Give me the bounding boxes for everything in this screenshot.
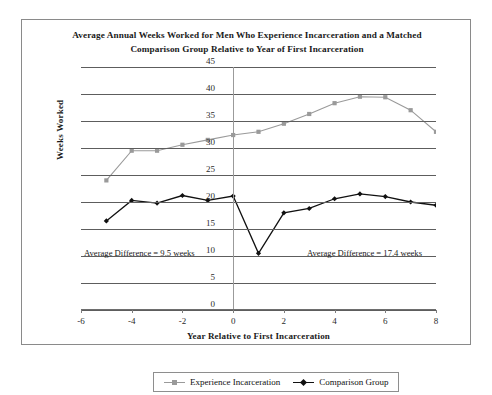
x-tick-label-6: 6 (374, 316, 396, 326)
data-point (433, 203, 436, 208)
x-tick-mark-4 (335, 310, 336, 313)
legend-label: Experience Incarceration (190, 377, 280, 387)
chart-title-line-1: Average Annual Weeks Worked for Men Who … (52, 29, 442, 43)
data-point (307, 206, 312, 211)
legend-entry-comparison-group[interactable]: Comparison Group (293, 377, 388, 387)
data-point (307, 112, 311, 116)
category-axis-line (81, 309, 436, 310)
data-point (104, 178, 108, 182)
legend-label: Comparison Group (319, 377, 388, 387)
x-tick-mark-8 (436, 310, 437, 313)
data-point (332, 196, 337, 201)
gridline-30 (81, 148, 436, 149)
y-tick-label-40: 40 (189, 83, 215, 93)
chart-legend: Experience IncarcerationComparison Group (153, 372, 399, 392)
data-point (357, 191, 362, 196)
series-line-experience-incarceration (106, 97, 436, 181)
x-tick-label--2: -2 (171, 316, 193, 326)
data-point (332, 101, 336, 105)
y-tick-label-15: 15 (189, 218, 215, 228)
data-point (358, 95, 362, 99)
data-point (180, 143, 184, 147)
gridline-40 (81, 94, 436, 95)
x-tick-label-0: 0 (222, 316, 244, 326)
data-point (130, 149, 134, 153)
x-tick-mark--2 (182, 310, 183, 313)
legend-swatch-icon (164, 378, 185, 387)
gridline-5 (81, 283, 436, 284)
gridline-35 (81, 121, 436, 122)
gridline-20 (81, 202, 436, 203)
annotation-average-difference-post: Average Difference = 17.4 weeks (307, 248, 422, 258)
y-tick-label-30: 30 (189, 137, 215, 147)
y-tick-label-5: 5 (189, 272, 215, 282)
x-tick-label-2: 2 (273, 316, 295, 326)
y-axis-title: Weeks Worked (55, 100, 65, 160)
y-tick-label-0: 0 (189, 299, 215, 309)
value-axis-line (233, 67, 234, 310)
data-point (282, 122, 286, 126)
x-tick-label--6: -6 (70, 316, 92, 326)
x-tick-mark-0 (233, 310, 234, 313)
y-tick-label-25: 25 (189, 164, 215, 174)
data-point (256, 130, 260, 134)
gridline-45 (81, 67, 436, 68)
annotation-average-difference-pre: Average Difference = 9.5 weeks (84, 248, 195, 258)
data-point (409, 108, 413, 112)
x-tick-mark--6 (81, 310, 82, 313)
legend-entry-experience-incarceration[interactable]: Experience Incarceration (164, 377, 280, 387)
data-point (383, 95, 387, 99)
chart-title-line-2: Comparison Group Relative to Year of Fir… (52, 43, 442, 57)
gridline-25 (81, 175, 436, 176)
gridline-15 (81, 229, 436, 230)
x-tick-mark-6 (385, 310, 386, 313)
gridline-0 (81, 310, 436, 311)
y-tick-label-45: 45 (189, 56, 215, 66)
data-point (180, 193, 185, 198)
series-layer (81, 67, 436, 310)
chart-title: Average Annual Weeks Worked for Men Who … (52, 29, 442, 56)
legend-swatch-icon (293, 378, 314, 387)
data-point (383, 194, 388, 199)
plot-area (81, 67, 436, 310)
x-tick-label-8: 8 (425, 316, 447, 326)
x-tick-label--4: -4 (121, 316, 143, 326)
data-point (155, 149, 159, 153)
data-point (434, 130, 436, 134)
x-tick-mark--4 (132, 310, 133, 313)
y-tick-label-35: 35 (189, 110, 215, 120)
x-tick-mark-2 (284, 310, 285, 313)
x-axis-title: Year Relative to First Incarceration (81, 331, 436, 341)
y-tick-label-20: 20 (189, 191, 215, 201)
x-tick-label-4: 4 (324, 316, 346, 326)
figure-frame: Average Annual Weeks Worked for Men Who … (21, 19, 471, 345)
